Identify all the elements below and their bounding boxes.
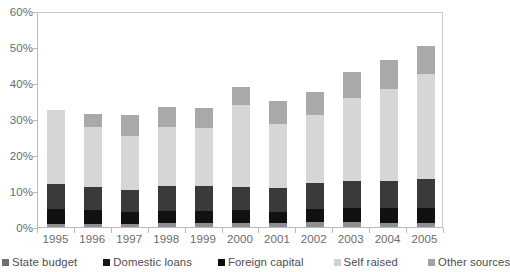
x-axis-tick-label: 2000 [222,233,259,245]
y-axis-tick-label: 10% [10,186,33,198]
legend-item[interactable]: Self raised [334,256,398,268]
bar-1997 [121,11,139,227]
bar-segment [417,179,435,207]
bar-segment [232,223,250,227]
bar-segment [232,210,250,223]
bar-segment [195,223,213,227]
bar-segment [232,105,250,186]
y-axis-tick [33,192,38,193]
bar-segment [380,208,398,222]
bar-segment [417,223,435,227]
bar-segment [195,108,213,128]
bar-segment [121,212,139,224]
legend-item-label: Foreign capital [228,256,304,268]
bar-segment [158,186,176,211]
bar-segment [380,60,398,90]
legend-item[interactable]: Foreign capital [218,256,304,268]
bar-segment [84,127,102,187]
y-axis-tick [33,48,38,49]
bar-segment [121,190,139,213]
bar-segment [343,208,361,222]
bar-segment [47,209,65,224]
bar-segment [343,72,361,98]
y-axis-tick [33,228,38,229]
bar-segment [158,223,176,227]
bar-segment [380,181,398,208]
x-axis-tick-label: 2001 [258,233,295,245]
y-axis-tick [33,84,38,85]
bar-segment [380,89,398,181]
bar-segment [158,127,176,186]
bar-2002 [306,11,324,227]
legend-swatch-icon [218,259,225,266]
bar-segment [417,208,435,223]
bar-segment [121,115,139,135]
legend-item[interactable]: Domestic loans [103,256,192,268]
x-axis-tick-label: 1995 [37,233,74,245]
bar-2001 [269,11,287,227]
y-axis-tick-label: 40% [10,78,33,90]
bar-segment [47,110,65,184]
bar-2003 [343,11,361,227]
bar-segment [306,222,324,227]
bar-segment [232,87,250,106]
legend-swatch-icon [334,259,341,266]
y-axis-tick-label: 0% [16,222,33,234]
y-axis-tick [33,120,38,121]
bar-segment [269,101,287,124]
bar-segment [84,114,102,127]
bar-segment [306,209,324,222]
bar-segment [84,210,102,224]
y-axis-tick-label: 60% [10,6,33,18]
bar-segment [195,128,213,186]
bar-segment [269,124,287,188]
bar-segment [158,211,176,223]
legend-item-label: Other sources [438,256,510,268]
y-axis-tick-label: 30% [10,114,33,126]
y-axis: 0%10%20%30%40%50%60% [0,0,33,272]
bar-segment [380,223,398,227]
bar-segment [343,222,361,227]
bar-segment [84,224,102,227]
bar-segment [195,186,213,210]
bar-segment [121,136,139,190]
legend-item-label: Self raised [344,256,398,268]
bar-segment [306,183,324,209]
bar-segment [158,107,176,126]
legend-swatch-icon [428,259,435,266]
bar-1999 [195,11,213,227]
bar-2004 [380,11,398,227]
bar-segment [417,74,435,179]
legend-item-label: State budget [12,256,77,268]
bar-segment [417,46,435,74]
legend-item[interactable]: State budget [2,256,77,268]
y-axis-tick-label: 20% [10,150,33,162]
y-axis-tick [33,12,38,13]
bar-segment [232,187,250,210]
bar-1995 [47,11,65,227]
bar-1996 [84,11,102,227]
x-axis-tick-label: 2002 [295,233,332,245]
x-axis-tick-label: 2003 [332,233,369,245]
x-axis-tick-label: 2005 [406,233,443,245]
bar-segment [269,223,287,227]
bar-segment [306,115,324,184]
x-axis-tick-label: 2004 [369,233,406,245]
bar-segment [121,224,139,227]
chart-legend: State budgetDomestic loansForeign capita… [0,254,446,270]
x-axis-tick-label: 1996 [74,233,111,245]
x-axis-tick-label: 1997 [111,233,148,245]
bar-segment [269,188,287,211]
legend-swatch-icon [2,259,9,266]
bar-segment [84,187,102,211]
plot-area [37,12,443,228]
bar-segment [306,92,324,115]
legend-item[interactable]: Other sources [428,256,510,268]
bar-segment [343,98,361,181]
bar-2000 [232,11,250,227]
x-axis-tick [443,228,444,233]
bar-1998 [158,11,176,227]
x-axis-tick-label: 1999 [185,233,222,245]
y-axis-tick-label: 50% [10,42,33,54]
